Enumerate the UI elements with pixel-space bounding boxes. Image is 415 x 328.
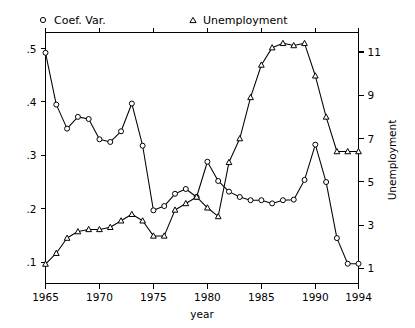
series-path bbox=[46, 43, 359, 264]
data-point-circle bbox=[324, 180, 329, 185]
data-point-circle bbox=[97, 137, 102, 142]
data-series-layer bbox=[43, 40, 362, 266]
series-coef-var bbox=[43, 50, 361, 266]
circle-marker-icon bbox=[40, 17, 45, 22]
data-point-circle bbox=[183, 186, 188, 191]
data-point-triangle bbox=[129, 211, 135, 216]
data-point-circle bbox=[334, 236, 339, 241]
data-point-triangle bbox=[64, 235, 70, 240]
data-point-triangle bbox=[280, 40, 286, 45]
data-point-circle bbox=[345, 261, 350, 266]
data-point-triangle bbox=[323, 114, 329, 119]
data-point-circle bbox=[43, 50, 48, 55]
data-point-circle bbox=[151, 208, 156, 213]
legend-label-unemployment: Unemployment bbox=[203, 14, 288, 27]
y-left-tick-label: .1 bbox=[26, 256, 36, 268]
x-tick-label: 1975 bbox=[140, 291, 167, 303]
x-tick-label: 1990 bbox=[302, 291, 329, 303]
series-unemployment bbox=[43, 40, 362, 266]
y-axis-right-ticks: 1357911 bbox=[359, 46, 381, 274]
data-point-circle bbox=[291, 197, 296, 202]
data-point-circle bbox=[129, 101, 134, 106]
data-point-triangle bbox=[312, 73, 318, 78]
y-right-tick-label: 9 bbox=[368, 89, 375, 101]
data-point-triangle bbox=[237, 136, 243, 141]
data-point-triangle bbox=[302, 40, 308, 45]
y-left-tick-label: .5 bbox=[26, 43, 36, 55]
x-axis-title: year bbox=[190, 308, 214, 320]
series-path bbox=[46, 53, 359, 264]
line-chart: 1965197019751980198519901994 .1.2.3.4.5 … bbox=[0, 0, 415, 328]
legend-item-coef-var[interactable]: Coef. Var. bbox=[40, 14, 105, 27]
y-right-tick-label: 1 bbox=[368, 262, 375, 274]
data-point-circle bbox=[108, 139, 113, 144]
data-point-circle bbox=[205, 159, 210, 164]
triangle-marker-icon bbox=[190, 17, 196, 22]
data-point-circle bbox=[173, 191, 178, 196]
data-point-circle bbox=[302, 177, 307, 182]
data-point-triangle bbox=[183, 200, 189, 205]
x-tick-label: 1965 bbox=[32, 291, 59, 303]
chart-container: 1965197019751980198519901994 .1.2.3.4.5 … bbox=[0, 0, 415, 328]
data-point-circle bbox=[280, 198, 285, 203]
data-point-triangle bbox=[172, 207, 178, 212]
legend: Coef. Var. Unemployment bbox=[40, 14, 288, 27]
y-axis-left-ticks: .1.2.3.4.5 bbox=[26, 43, 45, 269]
x-tick-label: 1985 bbox=[248, 291, 275, 303]
data-point-triangle bbox=[140, 218, 146, 223]
x-tick-label: 1970 bbox=[86, 291, 113, 303]
data-point-circle bbox=[313, 142, 318, 147]
data-point-triangle bbox=[226, 159, 232, 164]
data-point-circle bbox=[75, 114, 80, 119]
legend-label-coef-var: Coef. Var. bbox=[54, 14, 106, 27]
data-point-circle bbox=[54, 102, 59, 107]
y-left-tick-label: .4 bbox=[26, 96, 36, 108]
y-right-tick-label: 11 bbox=[368, 46, 381, 58]
legend-item-unemployment[interactable]: Unemployment bbox=[190, 14, 288, 27]
data-point-triangle bbox=[248, 94, 254, 99]
data-point-circle bbox=[86, 117, 91, 122]
y-axis-right-title: Unemployment bbox=[386, 120, 398, 201]
y-left-tick-label: .3 bbox=[26, 149, 36, 161]
x-tick-label: 1994 bbox=[345, 291, 372, 303]
data-point-circle bbox=[248, 198, 253, 203]
data-point-circle bbox=[270, 201, 275, 206]
y-right-tick-label: 7 bbox=[368, 133, 375, 145]
data-point-circle bbox=[237, 194, 242, 199]
data-point-circle bbox=[162, 204, 167, 209]
data-point-circle bbox=[356, 261, 361, 266]
y-left-tick-label: .2 bbox=[26, 203, 36, 215]
data-point-triangle bbox=[118, 218, 124, 223]
data-point-circle bbox=[259, 198, 264, 203]
data-point-circle bbox=[226, 189, 231, 194]
data-point-circle bbox=[140, 143, 145, 148]
data-point-circle bbox=[216, 178, 221, 183]
data-point-triangle bbox=[107, 224, 113, 229]
data-point-circle bbox=[119, 129, 124, 134]
data-point-circle bbox=[65, 126, 70, 131]
x-tick-label: 1980 bbox=[194, 291, 221, 303]
y-right-tick-label: 3 bbox=[368, 219, 375, 231]
y-right-tick-label: 5 bbox=[368, 176, 375, 188]
